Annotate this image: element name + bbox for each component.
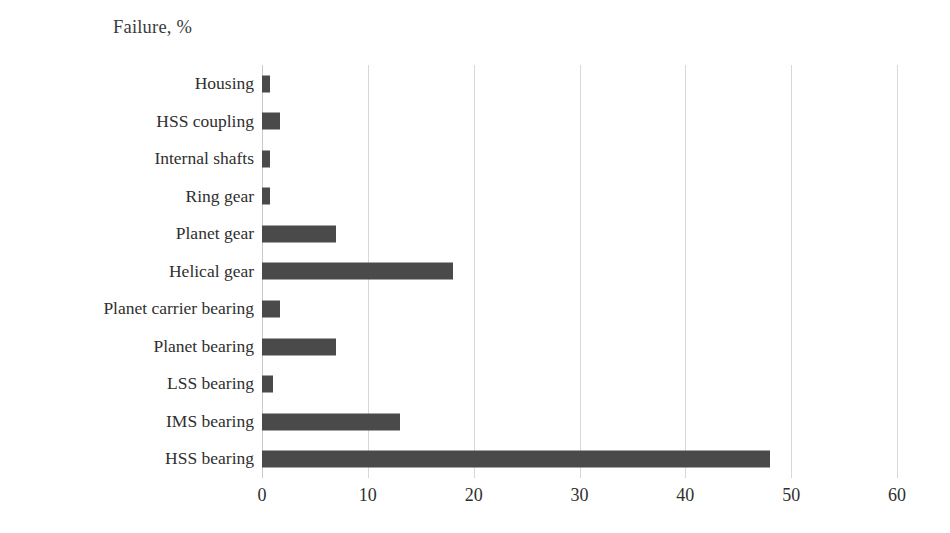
x-tick-label: 0 bbox=[258, 482, 267, 508]
failure-percentage-bar-chart: Failure, % HousingHSS couplingInternal s… bbox=[0, 0, 950, 533]
bar[interactable] bbox=[262, 225, 336, 242]
bar-row[interactable] bbox=[262, 290, 897, 328]
category-label: HSS bearing bbox=[14, 440, 254, 478]
category-label: Housing bbox=[14, 65, 254, 103]
category-label: Planet gear bbox=[14, 215, 254, 253]
x-tick-label: 10 bbox=[359, 482, 377, 508]
bar-row[interactable] bbox=[262, 253, 897, 291]
category-axis: HousingHSS couplingInternal shaftsRing g… bbox=[8, 65, 254, 478]
bar[interactable] bbox=[262, 113, 280, 130]
bar[interactable] bbox=[262, 75, 270, 92]
x-tick-label: 50 bbox=[782, 482, 800, 508]
bar-row[interactable] bbox=[262, 440, 897, 478]
bar-row[interactable] bbox=[262, 215, 897, 253]
category-label: Planet bearing bbox=[14, 328, 254, 366]
plot-area bbox=[262, 65, 897, 478]
category-label: LSS bearing bbox=[14, 365, 254, 403]
x-tick-label: 40 bbox=[676, 482, 694, 508]
bar[interactable] bbox=[262, 301, 280, 318]
bar[interactable] bbox=[262, 338, 336, 355]
gridline-60 bbox=[897, 65, 898, 478]
bar-row[interactable] bbox=[262, 365, 897, 403]
bar-row[interactable] bbox=[262, 103, 897, 141]
bar[interactable] bbox=[262, 150, 270, 167]
bar[interactable] bbox=[262, 413, 400, 430]
bar[interactable] bbox=[262, 451, 770, 468]
x-axis-tick-labels: 0102030405060 bbox=[262, 482, 897, 512]
bar-row[interactable] bbox=[262, 178, 897, 216]
bar-row[interactable] bbox=[262, 65, 897, 103]
bar-row[interactable] bbox=[262, 328, 897, 366]
category-label: Planet carrier bearing bbox=[14, 290, 254, 328]
bar[interactable] bbox=[262, 263, 453, 280]
chart-title: Failure, % bbox=[113, 16, 192, 38]
bar[interactable] bbox=[262, 376, 273, 393]
category-label: HSS coupling bbox=[14, 103, 254, 141]
x-tick-label: 30 bbox=[571, 482, 589, 508]
category-label: Helical gear bbox=[14, 253, 254, 291]
category-label: Ring gear bbox=[14, 178, 254, 216]
bar-row[interactable] bbox=[262, 140, 897, 178]
x-tick-label: 20 bbox=[465, 482, 483, 508]
x-tick-label: 60 bbox=[888, 482, 906, 508]
bar[interactable] bbox=[262, 188, 270, 205]
category-label: IMS bearing bbox=[14, 403, 254, 441]
bar-row[interactable] bbox=[262, 403, 897, 441]
category-label: Internal shafts bbox=[14, 140, 254, 178]
